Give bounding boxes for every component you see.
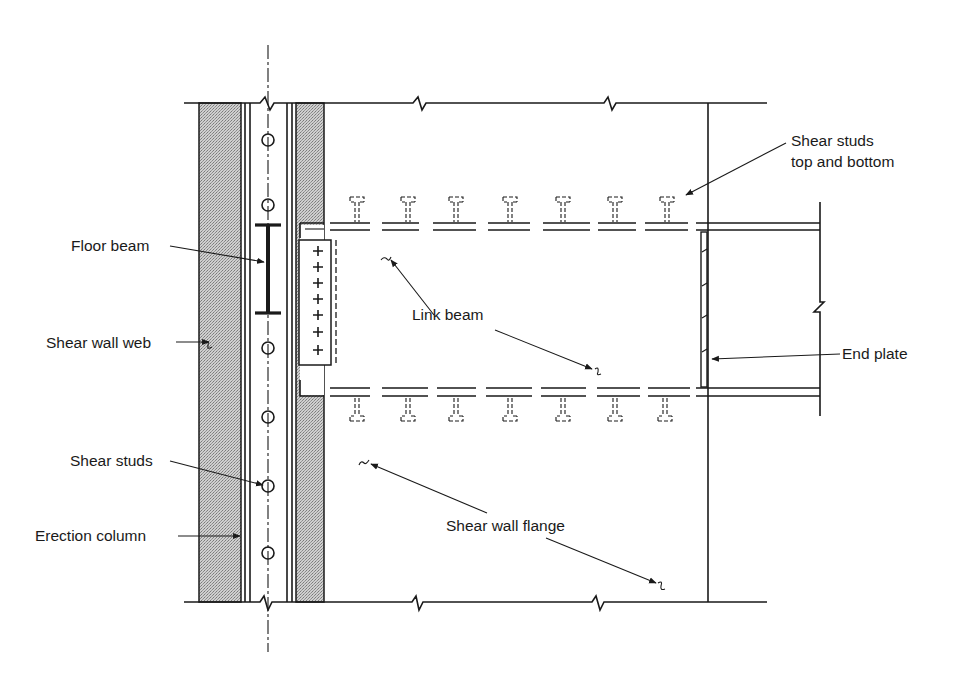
link-beam-detail-diagram: Floor beam Shear wall web Shear studs Er… <box>0 0 957 680</box>
connection-plate <box>299 240 336 365</box>
bottom-boundary <box>184 596 767 610</box>
label-shear-studs-top-bottom-1: Shear studs <box>791 132 874 149</box>
link-beam <box>300 202 824 416</box>
label-shear-studs-column: Shear studs <box>70 452 153 469</box>
label-link-beam: Link beam <box>412 306 484 323</box>
top-shear-studs <box>350 197 674 222</box>
label-erection-column: Erection column <box>35 527 146 544</box>
label-shear-wall-flange: Shear wall flange <box>446 517 565 534</box>
label-floor-beam: Floor beam <box>71 237 149 254</box>
label-end-plate: End plate <box>842 345 908 362</box>
end-plate <box>701 232 707 387</box>
labels: Floor beam Shear wall web Shear studs Er… <box>35 132 908 544</box>
top-boundary <box>184 97 767 110</box>
bottom-shear-studs <box>350 398 672 421</box>
label-shear-studs-top-bottom-2: top and bottom <box>791 153 894 170</box>
floor-beam <box>255 225 281 313</box>
label-shear-wall-web: Shear wall web <box>46 334 151 351</box>
